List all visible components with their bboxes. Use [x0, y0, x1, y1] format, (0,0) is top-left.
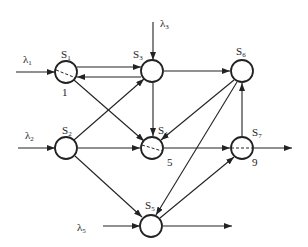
label-lambda2: λ2 — [25, 129, 34, 143]
node-s5 — [140, 215, 162, 237]
edge-s2-s5 — [75, 156, 142, 217]
node-s2 — [55, 137, 77, 159]
number-s1: 1 — [62, 86, 68, 98]
label-lambda1: λ1 — [23, 53, 32, 67]
node-s1 — [55, 61, 77, 83]
label-s3: S3 — [133, 48, 143, 62]
label-s2: S2 — [62, 124, 72, 138]
label-lambda3: λ3 — [160, 17, 169, 31]
network-diagram: S1 S3 S6 S2 S4 S7 S5 1 5 9 λ1 λ2 λ3 λ5 — [0, 0, 308, 247]
number-s4: 5 — [167, 156, 173, 168]
label-s5: S5 — [145, 199, 155, 213]
node-s3 — [141, 60, 163, 82]
label-s1: S1 — [61, 48, 71, 62]
edge-s1-s4 — [74, 80, 144, 141]
label-s4: S4 — [158, 124, 168, 138]
label-lambda5: λ5 — [77, 221, 86, 235]
edge-s6-s4 — [161, 80, 234, 140]
label-s7: S7 — [252, 126, 262, 140]
node-s6 — [231, 60, 253, 82]
number-s7: 9 — [252, 156, 258, 168]
label-s6: S6 — [236, 45, 246, 59]
edge-s2-s3 — [74, 79, 144, 140]
